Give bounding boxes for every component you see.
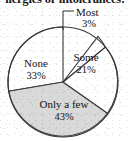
slice-percent-most: 3% [82,18,96,29]
slice-label-most: Most [76,7,99,18]
pie-chart-figure: llergies or intolerances: Most 3% None 3… [0,0,130,141]
slice-label-none-name: None [14,58,58,70]
slice-label-only-a-few-percent: 43% [30,111,98,123]
slice-label-some-percent: 21% [64,64,108,76]
slice-label-some-name: Some [64,52,108,64]
slice-label-none: None 33% [14,58,58,81]
slice-label-some: Some 21% [64,52,108,75]
slice-label-only-a-few-name: Only a few [30,99,98,111]
slice-label-only-a-few: Only a few 43% [30,99,98,122]
slice-label-none-percent: 33% [14,70,58,82]
